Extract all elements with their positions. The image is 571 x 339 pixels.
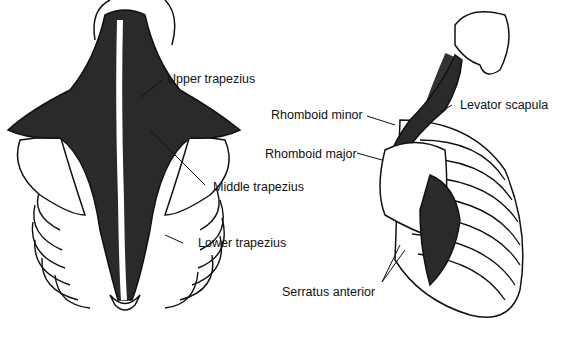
label-middle-trapezius: Middle trapezius — [213, 180, 304, 194]
label-rhomboid-minor: Rhomboid minor — [271, 108, 363, 122]
label-levator-scapula: Levator scapula — [460, 98, 548, 112]
side-view-figure — [380, 12, 523, 318]
label-upper-trapezius: Upper trapezius — [167, 72, 255, 86]
label-lower-trapezius: Lower trapezius — [198, 236, 286, 250]
label-serratus-anterior: Serratus anterior — [282, 285, 375, 299]
anatomy-diagram: Upper trapezius Middle trapezius Lower t… — [0, 0, 571, 339]
label-rhomboid-major: Rhomboid major — [265, 147, 357, 161]
back-view-figure — [8, 0, 240, 310]
